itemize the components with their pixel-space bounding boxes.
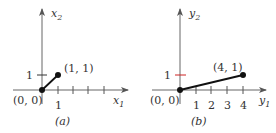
point-label-b: (4, 1) (213, 61, 243, 74)
caption-b: (b) (191, 115, 207, 128)
y2-tick-label: 1 (164, 69, 171, 82)
origin-label-a: (0, 0) (13, 94, 43, 107)
y1-tick-label-4: 4 (240, 99, 247, 112)
y1-tick-label-2: 2 (208, 99, 215, 112)
point-1-1 (55, 72, 61, 78)
x1-axis-label: x1 (113, 94, 124, 109)
x2-axis-label: x2 (51, 7, 62, 22)
panel-a: x2 x1 1 (1, 1) (0, 0) 1 (a) (13, 7, 128, 128)
origin-point-a (39, 87, 45, 93)
diagram-canvas: x2 x1 1 (1, 1) (0, 0) 1 (a) y2 y1 1 (4, … (0, 0, 276, 133)
origin-point-b (177, 87, 183, 93)
caption-a: (a) (55, 115, 70, 128)
x2-tick-label: 1 (26, 69, 33, 82)
y1-axis-label: y1 (258, 94, 270, 109)
y2-axis-label: y2 (188, 7, 200, 22)
y1-tick-label-1: 1 (193, 99, 200, 112)
x1-tick-label-1: 1 (55, 99, 62, 112)
point-label-a: (1, 1) (64, 62, 94, 75)
segment-a (42, 75, 58, 90)
y1-tick-label-3: 3 (224, 99, 231, 112)
origin-label-b: (0, 0) (150, 94, 180, 107)
panel-b: y2 y1 1 (4, 1) (0, 0) 1 2 3 4 (b) (150, 7, 270, 128)
